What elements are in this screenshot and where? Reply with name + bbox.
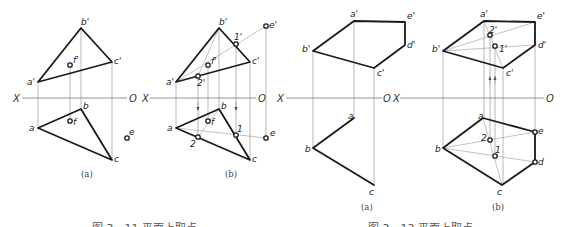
label-a-prime: a' [27, 77, 35, 87]
label-1-prime: 1' [234, 32, 242, 42]
aux-line-b-d [443, 148, 535, 162]
figure-caption-right: 图 3 - 12 平面上取点 [368, 222, 473, 227]
label-2-prime: 2' [197, 78, 205, 88]
figure-3-11a: X O a' b' c' f' a b c f e (a) [12, 17, 137, 179]
label-d-prime: d' [538, 40, 546, 50]
figure-caption-left: 图 3 - 11 平面上取点 [92, 222, 197, 227]
label-a-prime: a' [350, 9, 358, 19]
label-a: a [348, 111, 354, 121]
point-e [264, 136, 268, 140]
point-f-prime [206, 63, 210, 67]
label-e-prime: e' [537, 11, 545, 21]
axis-x-label: X [141, 93, 150, 104]
label-a: a [29, 123, 35, 133]
point-1-prime [234, 42, 238, 46]
partial-top-view [313, 118, 374, 185]
arrow-down-icon [235, 102, 238, 111]
axis-x-label: X [12, 93, 21, 104]
label-c-prime: c' [114, 56, 121, 66]
pentagon-top-view [443, 118, 535, 185]
label-1: 1 [237, 124, 243, 134]
point-d [533, 160, 537, 164]
label-f-prime: f' [211, 56, 217, 66]
axis-o-label: O [129, 93, 137, 104]
aux-line-a-e-prime [176, 26, 266, 82]
point-2 [488, 138, 492, 142]
label-f: f [73, 117, 78, 127]
label-a: a [478, 111, 484, 121]
label-e: e [270, 128, 276, 138]
axis-x-label: X [392, 93, 401, 104]
label-c-prime: c' [377, 68, 384, 78]
label-b-prime: b' [81, 17, 89, 27]
label-a: a [167, 123, 173, 133]
point-1-prime [493, 44, 497, 48]
figure-3-11b: X O a' [141, 17, 277, 179]
label-b: b [221, 101, 227, 111]
label-b-prime: b' [219, 17, 227, 27]
label-b: b [435, 144, 441, 154]
subcaption: (b) [492, 202, 504, 212]
point-f [68, 119, 72, 123]
label-f-prime: f' [73, 55, 79, 65]
subcaption: (b) [225, 169, 237, 179]
label-2: 2 [481, 133, 487, 143]
projection-diagrams: X O a' b' c' f' a b c f e (a) X O [0, 0, 563, 227]
label-f: f [211, 117, 216, 127]
figure-3-12a: X O a' e' d' c' b' a b c (a) [276, 9, 415, 212]
subcaption: (a) [361, 202, 373, 212]
arrow-up-icon [494, 76, 497, 84]
label-2-prime: 2' [489, 25, 497, 35]
point-e [533, 130, 537, 134]
label-d-prime: d' [407, 40, 415, 50]
figure-3-12b: X O a' [392, 9, 554, 212]
label-e-prime: e' [269, 20, 277, 30]
label-e-prime: e' [407, 11, 415, 21]
label-b: b [305, 144, 311, 154]
label-1: 1 [495, 145, 501, 155]
axis-o-label: O [546, 93, 554, 104]
label-b-prime: b' [302, 44, 310, 54]
label-c: c [369, 187, 374, 197]
arrow-down-icon [197, 102, 200, 111]
aux-line-b-d-prime [443, 45, 535, 51]
axis-o-label: O [258, 93, 266, 104]
label-e: e [129, 127, 135, 137]
axis-x-label: X [276, 93, 285, 104]
label-a-prime: a' [480, 9, 488, 19]
axis-o-label: O [383, 93, 391, 104]
label-d: d [538, 157, 544, 167]
label-a-prime: a' [166, 77, 174, 87]
label-c: c [497, 187, 502, 197]
label-c-prime: c' [252, 56, 259, 66]
point-f [206, 119, 210, 123]
aux-line-b-2-prime [198, 28, 219, 76]
pentagon-front-view [313, 21, 405, 68]
label-b: b [83, 101, 89, 111]
label-2: 2 [190, 139, 196, 149]
label-b-prime: b' [432, 44, 440, 54]
label-e: e [538, 126, 544, 136]
arrow-up-icon [489, 76, 492, 84]
subcaption: (a) [81, 169, 93, 179]
label-c: c [114, 154, 119, 164]
label-c-prime: c' [506, 68, 513, 78]
label-1-prime: 1' [499, 44, 507, 54]
point-2 [196, 135, 200, 139]
point-f-prime [68, 63, 72, 67]
point-e-prime [264, 24, 268, 28]
label-c: c [252, 154, 257, 164]
